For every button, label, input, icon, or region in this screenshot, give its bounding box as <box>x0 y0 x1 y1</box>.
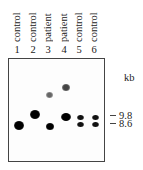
lane-label-1: control <box>11 2 23 42</box>
unit-label: kb <box>124 72 135 83</box>
band-lane2 <box>30 110 40 119</box>
band-lane4-lower <box>61 113 71 121</box>
lane-number-2: 2 <box>27 44 39 55</box>
lane-number-4: 4 <box>58 44 70 55</box>
blot-membrane <box>8 58 105 162</box>
band-lane5-8.6 <box>77 122 84 127</box>
lane-label-3: patient <box>42 2 54 42</box>
lane-number-3: 3 <box>42 44 54 55</box>
lane-label-4: patient <box>58 2 70 42</box>
lane-label-5: control <box>73 2 85 42</box>
band-lane4-upper <box>62 84 70 91</box>
band-lane1 <box>14 121 24 130</box>
lane-number-6: 6 <box>88 44 100 55</box>
band-lane3-upper <box>46 92 53 98</box>
band-lane6-9.8 <box>92 115 99 120</box>
marker-tick-8.6 <box>110 123 116 124</box>
band-lane3-lower <box>46 123 54 130</box>
marker-label-8.6: 8.6 <box>119 118 132 129</box>
band-lane6-8.6 <box>92 122 99 127</box>
lane-number-1: 1 <box>11 44 23 55</box>
lane-label-6: control <box>88 2 100 42</box>
lane-label-2: control <box>27 2 39 42</box>
band-lane5-9.8 <box>77 115 84 120</box>
marker-tick-9.8 <box>110 115 116 116</box>
lane-number-5: 5 <box>73 44 85 55</box>
